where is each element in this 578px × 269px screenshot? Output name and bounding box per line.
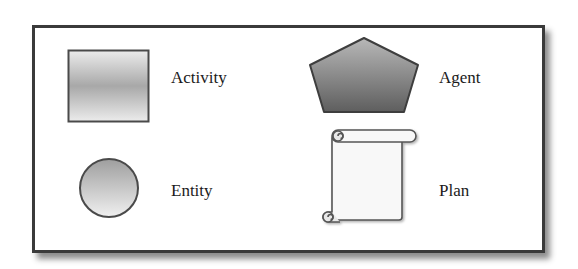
agent-pentagon-icon <box>307 36 421 115</box>
plan-label: Plan <box>439 181 469 201</box>
entity-circle-icon <box>78 157 140 219</box>
plan-scroll-icon <box>318 126 420 228</box>
activity-square-icon <box>67 49 151 124</box>
agent-label: Agent <box>439 68 481 88</box>
entity-label: Entity <box>171 181 213 201</box>
activity-label: Activity <box>171 68 227 88</box>
